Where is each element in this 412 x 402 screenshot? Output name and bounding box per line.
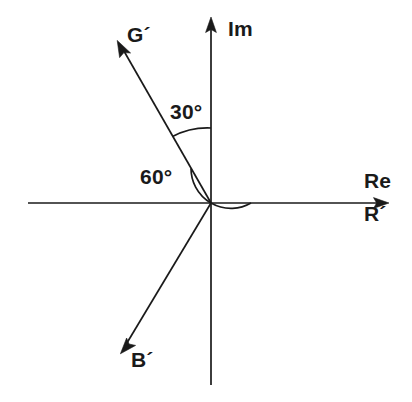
phasor-diagram-canvas <box>0 0 412 402</box>
real-axis-label: Re <box>364 170 391 191</box>
angle-label-30: 30° <box>170 101 202 122</box>
vector-g-label: G´ <box>127 24 151 45</box>
vector-r-label: R´ <box>364 203 387 224</box>
angle-label-60: 60° <box>140 166 172 187</box>
vector-b-line <box>128 203 212 342</box>
imaginary-axis-label: Im <box>228 18 253 39</box>
phasor-diagram-figure: Im Re R´ G´ B´ 30° 60° <box>0 0 412 402</box>
vector-b-label: B´ <box>131 349 154 370</box>
angle-arc-30 <box>173 128 212 137</box>
